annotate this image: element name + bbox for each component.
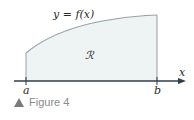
triangle-up-icon [14, 98, 24, 107]
x-axis-label: x [179, 66, 186, 79]
curve-label: y = f(x) [52, 8, 94, 21]
region-fill [26, 15, 157, 81]
figure-caption: Figure 4 [14, 96, 69, 108]
caption-text: Figure 4 [29, 96, 69, 108]
right-bound-label: b [154, 84, 161, 97]
region-label: ℛ [85, 49, 95, 62]
